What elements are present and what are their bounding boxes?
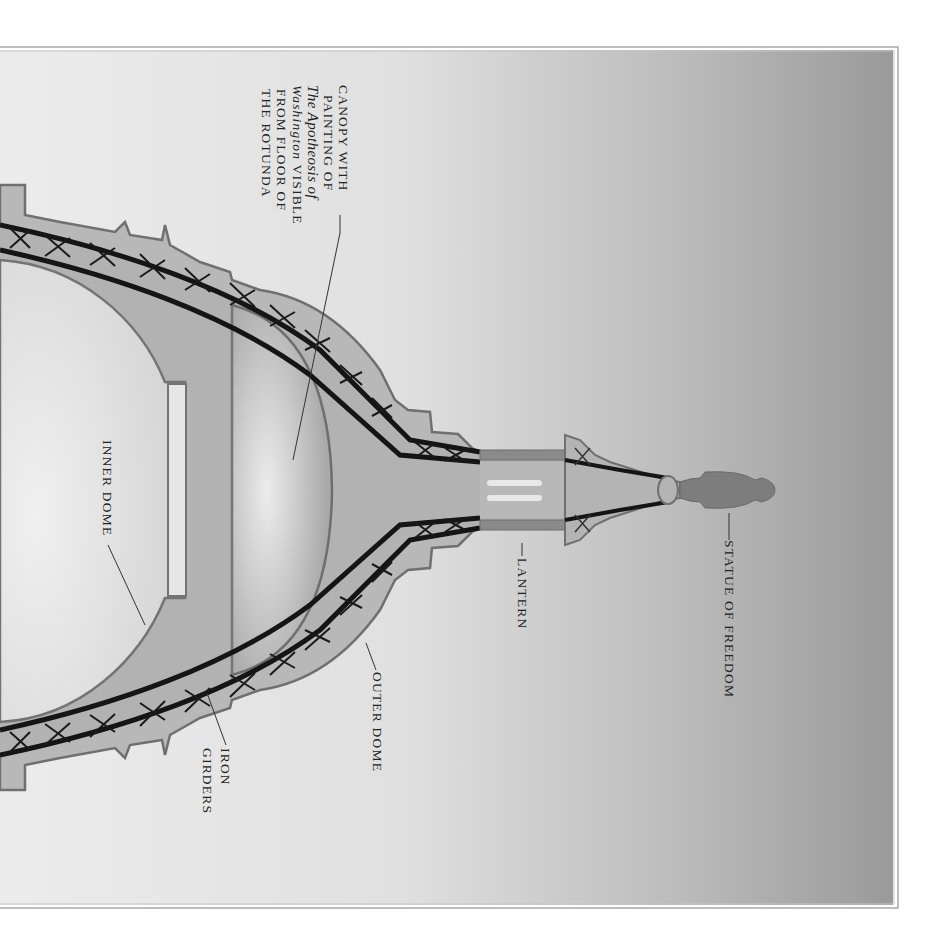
canopy-line-2: PAINTING OF bbox=[320, 85, 336, 225]
label-iron: IRON bbox=[218, 748, 233, 786]
label-outer-dome: OUTER DOME bbox=[370, 672, 385, 772]
canopy-line-4: Washington VISIBLE bbox=[289, 85, 305, 225]
canopy-line-5: FROM FLOOR OF bbox=[274, 85, 290, 225]
diagram-canvas bbox=[0, 0, 947, 945]
canopy-line-1: CANOPY WITH bbox=[336, 85, 352, 225]
label-statue-of-freedom: STATUE OF FREEDOM bbox=[722, 540, 737, 698]
canopy-line-4-rest: VISIBLE bbox=[290, 160, 305, 224]
canopy-line-4-italic: Washington bbox=[290, 85, 305, 160]
dome-cross-section-diagram: STATUE OF FREEDOM LANTERN OUTER DOME IRO… bbox=[0, 0, 947, 945]
inner-dome-oculus-ring bbox=[168, 384, 186, 596]
label-lantern: LANTERN bbox=[515, 558, 530, 629]
lantern-window bbox=[487, 495, 542, 501]
label-canopy: CANOPY WITH PAINTING OF The Apotheosis o… bbox=[258, 85, 351, 225]
canopy-line-3: The Apotheosis of bbox=[305, 85, 321, 225]
canopy-line-6: THE ROTUNDA bbox=[258, 85, 274, 225]
label-inner-dome: INNER DOME bbox=[100, 440, 115, 536]
lantern-window bbox=[487, 480, 542, 486]
label-girders: GIRDERS bbox=[200, 748, 215, 814]
